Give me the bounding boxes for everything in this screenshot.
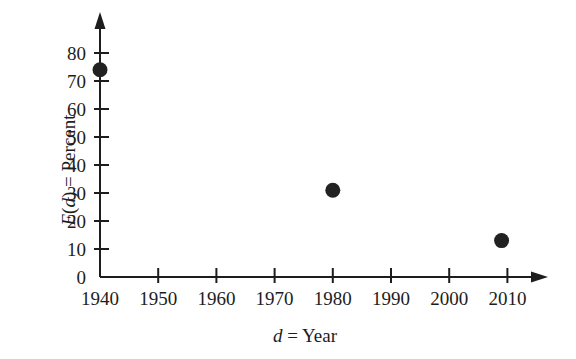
x-axis-title: d = Year (273, 326, 337, 346)
y-tick-label: 80 (0, 44, 86, 63)
y-tick-label: 10 (0, 240, 86, 259)
y-axis-function-symbol: E (58, 214, 79, 226)
data-point (494, 233, 509, 248)
scatter-plot-figure: 01020304050607080 1940195019601970198019… (0, 0, 576, 359)
data-point (325, 183, 340, 198)
x-axis-arrow-icon (531, 272, 548, 283)
y-axis-ticks (94, 53, 109, 249)
x-tick-label: 1940 (81, 289, 119, 308)
x-tick-label: 1980 (314, 289, 352, 308)
y-axis-title-text: Percent (58, 115, 79, 172)
y-axis-close-paren: ) (58, 192, 79, 198)
x-tick-label: 1970 (256, 289, 294, 308)
x-axis-variable-symbol: d (273, 325, 283, 346)
data-points (93, 62, 510, 248)
data-point (93, 62, 108, 77)
x-tick-label: 2010 (488, 289, 526, 308)
y-axis-arrow-icon (95, 12, 106, 29)
x-axis-title-text: Year (302, 325, 337, 346)
x-tick-label: 2000 (430, 289, 468, 308)
y-axis-open-paren: ( (58, 208, 79, 214)
y-tick-label: 0 (0, 268, 86, 287)
y-axis-title: E(d) = Percent (59, 115, 79, 226)
x-tick-label: 1960 (197, 289, 235, 308)
axes (95, 12, 549, 283)
y-tick-label: 70 (0, 72, 86, 91)
y-axis-argument-symbol: d (58, 198, 79, 208)
x-axis-equals: = (282, 325, 302, 346)
x-axis-ticks (158, 268, 507, 283)
x-tick-label: 1990 (372, 289, 410, 308)
x-tick-label: 1950 (139, 289, 177, 308)
y-axis-equals: = (58, 172, 79, 192)
